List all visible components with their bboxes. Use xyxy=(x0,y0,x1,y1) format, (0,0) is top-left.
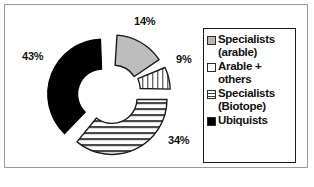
slice-value-label-specialists-biotope: 34% xyxy=(168,134,189,146)
solid-gray-swatch-icon xyxy=(207,36,216,45)
slice-value-label-arable-others: 9% xyxy=(176,53,192,65)
legend-label-line1: Arable + xyxy=(218,60,261,72)
legend-item-specialists-biotope[interactable]: Specialists (Biotope) xyxy=(207,87,293,113)
legend-label-line2: (Biotope) xyxy=(218,100,266,112)
legend-item-ubiquists[interactable]: Ubiquists xyxy=(207,114,293,127)
legend-label-line1: Ubiquists xyxy=(218,114,268,126)
white-swatch-icon xyxy=(207,63,216,72)
legend-item-arable-others[interactable]: Arable + others xyxy=(207,60,293,86)
scan-artifact-text xyxy=(8,172,306,184)
slice-value-label-ubiquists: 43% xyxy=(22,50,43,62)
pie-slice-specialists-arable[interactable] xyxy=(115,35,159,76)
legend-label-specialists-arable: Specialists (arable) xyxy=(218,33,275,59)
pie-slice-specialists-biotope[interactable] xyxy=(77,100,167,155)
legend-label-line2: others xyxy=(218,73,251,85)
legend-label-line2: (arable) xyxy=(218,46,257,58)
legend-label-arable-others: Arable + others xyxy=(218,60,261,86)
legend-item-specialists-arable[interactable]: Specialists (arable) xyxy=(207,33,293,59)
legend-label-line1: Specialists xyxy=(218,87,275,99)
horizontal-lines-swatch-icon xyxy=(207,90,216,99)
black-swatch-icon xyxy=(207,117,216,126)
chart-legend: Specialists (arable) Arable + others Spe… xyxy=(203,28,296,163)
legend-label-ubiquists: Ubiquists xyxy=(218,114,268,127)
legend-label-line1: Specialists xyxy=(218,33,275,45)
slice-value-label-specialists-arable: 14% xyxy=(134,15,155,27)
figure-container: 14% 9% 34% 43% Specialists (arable) Arab… xyxy=(0,0,314,187)
legend-label-specialists-biotope: Specialists (Biotope) xyxy=(218,87,275,113)
pie-slice-ubiquists[interactable] xyxy=(48,39,102,134)
